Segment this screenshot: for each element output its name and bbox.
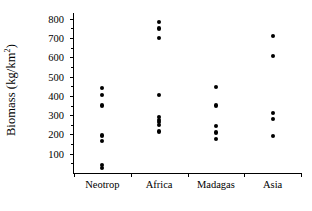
- x-axis-tick: [244, 173, 245, 177]
- y-axis-tick-label: 700: [48, 34, 64, 45]
- y-axis-tick-minor: [71, 86, 74, 87]
- data-point: [214, 137, 218, 141]
- data-point: [157, 93, 161, 97]
- y-axis-tick-label: 600: [48, 53, 64, 64]
- y-axis-tick-label: 200: [48, 130, 64, 141]
- data-point: [100, 86, 104, 90]
- data-point: [214, 130, 218, 134]
- y-axis-tick-major: 500: [70, 77, 74, 78]
- data-point: [157, 123, 161, 127]
- y-axis-tick-major: 300: [70, 115, 74, 116]
- data-point: [100, 139, 104, 143]
- data-point: [100, 166, 104, 170]
- x-axis-tick: [301, 173, 302, 177]
- data-point: [271, 111, 275, 115]
- y-axis-tick-major: 800: [70, 19, 74, 20]
- y-axis-tick-major: 200: [70, 134, 74, 135]
- y-axis-title: Biomass (kg/km2): [3, 44, 19, 136]
- y-axis-tick-minor: [71, 48, 74, 49]
- data-point: [271, 34, 275, 38]
- data-point: [157, 129, 161, 133]
- data-point: [157, 20, 161, 24]
- y-axis-tick-minor: [71, 163, 74, 164]
- y-axis-tick-minor: [71, 106, 74, 107]
- y-axis-tick-label: 800: [48, 15, 64, 26]
- data-point: [157, 36, 161, 40]
- data-point: [157, 26, 161, 30]
- y-axis-tick-major: 400: [70, 96, 74, 97]
- data-point: [271, 117, 275, 121]
- y-axis-tick-major: 100: [70, 154, 74, 155]
- data-point: [214, 103, 218, 107]
- data-point: [100, 103, 104, 107]
- data-point: [100, 93, 104, 97]
- x-axis-category-label-asia: Asia: [263, 180, 282, 191]
- data-point: [214, 124, 218, 128]
- y-axis-tick-minor: [71, 125, 74, 126]
- x-axis-tick: [74, 173, 75, 177]
- data-point: [214, 85, 218, 89]
- y-axis-tick-major: 600: [70, 57, 74, 58]
- scatter-plot-figure: Biomass (kg/km2) 10020030040050060070080…: [0, 0, 312, 211]
- data-point: [271, 134, 275, 138]
- x-axis-category-label-madagas: Madagas: [197, 180, 235, 191]
- y-axis-tick-major: 700: [70, 38, 74, 39]
- x-axis-category-label-africa: Africa: [146, 180, 173, 191]
- y-axis-tick-minor: [71, 67, 74, 68]
- y-axis-tick-minor: [71, 144, 74, 145]
- y-axis-title-main: Biomass (kg/km: [4, 52, 18, 136]
- x-axis-tick: [188, 173, 189, 177]
- y-axis-title-close-paren: ): [4, 44, 18, 48]
- y-axis-tick-label: 100: [48, 149, 64, 160]
- y-axis-tick-minor: [71, 28, 74, 29]
- data-point: [100, 133, 104, 137]
- plot-area: 100200300400500600700800NeotropAfricaMad…: [73, 13, 301, 174]
- y-axis-title-container: Biomass (kg/km2): [0, 0, 22, 180]
- data-point: [271, 54, 275, 58]
- x-axis-tick: [131, 173, 132, 177]
- y-axis-tick-label: 300: [48, 111, 64, 122]
- y-axis-title-exponent: 2: [3, 48, 12, 52]
- y-axis-tick-label: 400: [48, 92, 64, 103]
- y-axis-tick-label: 500: [48, 72, 64, 83]
- x-axis-category-label-neotrop: Neotrop: [85, 180, 119, 191]
